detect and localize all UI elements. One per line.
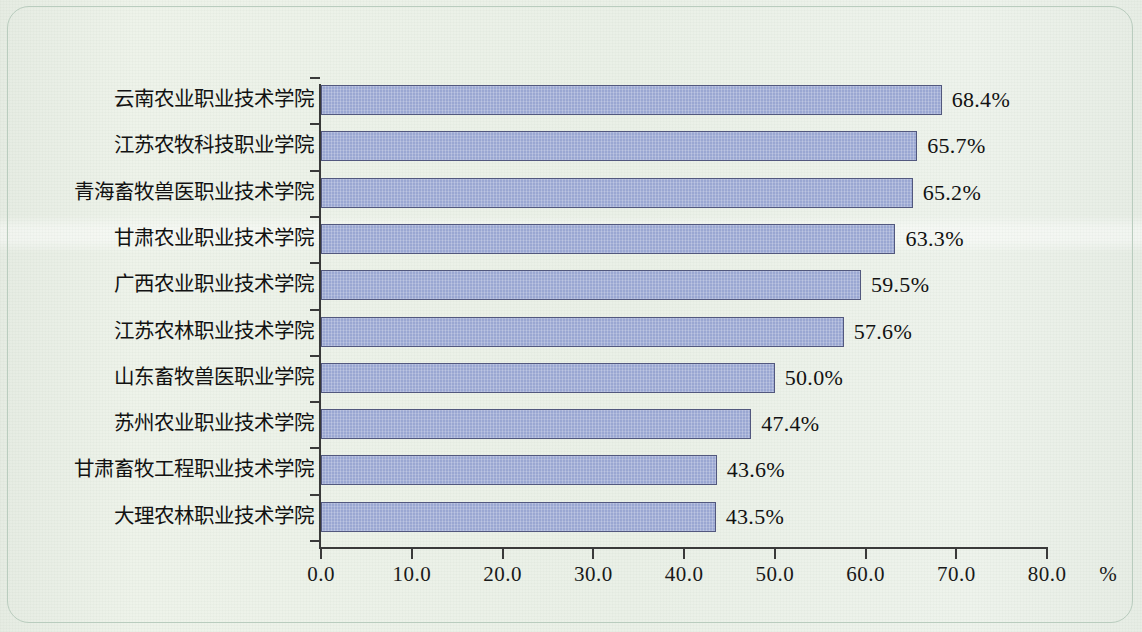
bar — [321, 178, 913, 208]
category-tick — [310, 401, 320, 403]
category-label: 苏州农业职业技术学院 — [14, 413, 314, 434]
x-axis-tick — [865, 549, 867, 559]
bar-value-label: 43.6% — [727, 459, 785, 481]
x-axis-tick — [320, 549, 322, 559]
category-label: 大理农林职业技术学院 — [14, 506, 314, 527]
category-tick — [310, 77, 320, 79]
x-axis-tick-label: 40.0 — [639, 562, 729, 587]
bar — [321, 455, 717, 485]
category-label: 甘肃农业职业技术学院 — [14, 228, 314, 249]
bar-value-label: 59.5% — [871, 274, 929, 296]
x-axis-tick — [1046, 549, 1048, 559]
category-tick — [310, 262, 320, 264]
category-tick — [310, 447, 320, 449]
bar-value-label: 47.4% — [761, 413, 819, 435]
bar — [321, 224, 895, 254]
chart-page: 0.010.020.030.040.050.060.070.080.0 云南农业… — [0, 0, 1142, 632]
bar — [321, 317, 844, 347]
bar — [321, 131, 917, 161]
category-label: 青海畜牧兽医职业技术学院 — [14, 182, 314, 203]
category-tick — [310, 494, 320, 496]
bar-value-label: 43.5% — [726, 506, 784, 528]
category-label: 广西农业职业技术学院 — [14, 274, 314, 295]
bar-value-label: 65.7% — [927, 135, 985, 157]
x-axis-tick-label: 70.0 — [911, 562, 1001, 587]
category-label: 江苏农牧科技职业学院 — [14, 135, 314, 156]
x-axis-tick-label: 20.0 — [458, 562, 548, 587]
category-tick — [310, 123, 320, 125]
x-axis-tick-label: 0.0 — [276, 562, 366, 587]
x-axis-tick — [592, 549, 594, 559]
bar — [321, 409, 751, 439]
bar — [321, 270, 861, 300]
bar-value-label: 57.6% — [854, 321, 912, 343]
category-tick — [310, 216, 320, 218]
category-tick — [310, 540, 320, 542]
plot-area: 0.010.020.030.040.050.060.070.080.0 云南农业… — [0, 0, 1142, 632]
bar — [321, 85, 942, 115]
bar-value-label: 68.4% — [952, 89, 1010, 111]
category-tick — [310, 309, 320, 311]
x-axis-tick — [955, 549, 957, 559]
x-axis-tick — [502, 549, 504, 559]
x-axis-tick — [411, 549, 413, 559]
category-label: 山东畜牧兽医职业学院 — [14, 367, 314, 388]
category-label: 甘肃畜牧工程职业技术学院 — [14, 459, 314, 480]
bar-value-label: 63.3% — [905, 228, 963, 250]
category-label: 云南农业职业技术学院 — [14, 89, 314, 110]
bar — [321, 363, 775, 393]
category-tick — [310, 170, 320, 172]
bar-value-label: 65.2% — [923, 182, 981, 204]
x-axis-tick-label: 80.0 — [1002, 562, 1092, 587]
x-axis-tick-label: 10.0 — [367, 562, 457, 587]
category-tick — [310, 355, 320, 357]
category-label: 江苏农林职业技术学院 — [14, 321, 314, 342]
x-axis-tick — [774, 549, 776, 559]
x-axis-unit-label: % — [1099, 562, 1117, 587]
x-axis-tick-label: 50.0 — [730, 562, 820, 587]
x-axis-tick-label: 60.0 — [821, 562, 911, 587]
bar — [321, 502, 716, 532]
x-axis-tick-label: 30.0 — [548, 562, 638, 587]
x-axis-tick — [683, 549, 685, 559]
bar-value-label: 50.0% — [785, 367, 843, 389]
